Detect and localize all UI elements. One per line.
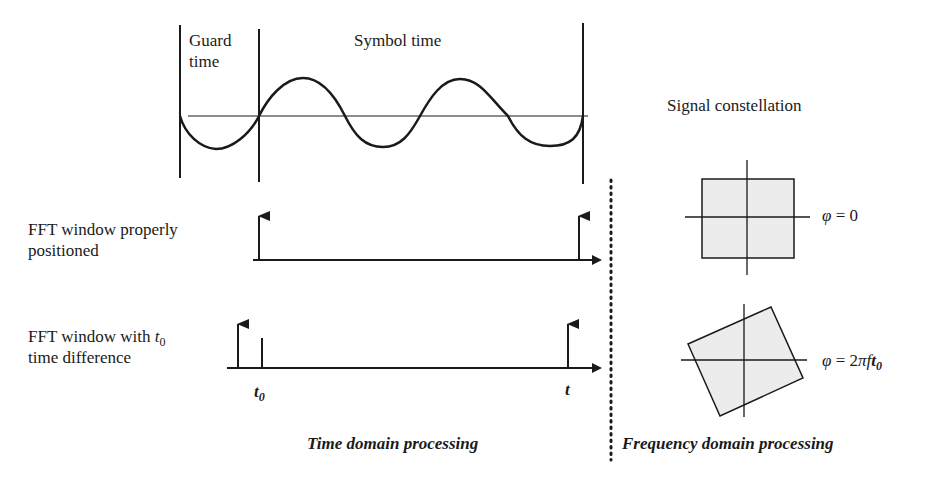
fft-proper-line1: FFT window properly (28, 219, 178, 240)
constellation-square (702, 179, 794, 258)
t-subscript: 0 (876, 359, 882, 373)
phase-shift-eq: = 2 (831, 351, 858, 370)
guard-time-line2: time (189, 51, 231, 72)
phi-symbol-2: φ (822, 351, 831, 370)
t0-axis-sub: 0 (259, 390, 265, 404)
fft-offset-line2: time difference (28, 347, 165, 368)
phase-zero-label: φ = 0 (822, 205, 858, 226)
constellation-rotated (681, 304, 807, 417)
timeline-proper (253, 216, 600, 260)
fft-proper-line2: positioned (28, 240, 178, 261)
signal-constellation-title: Signal constellation (667, 95, 802, 116)
guard-time-line1: Guard (189, 30, 231, 51)
t0-subscript: 0 (159, 335, 165, 349)
constellation-aligned (685, 160, 810, 275)
symbol-time-label: Symbol time (354, 30, 441, 51)
phase-shift-label: φ = 2πft0 (822, 350, 882, 371)
phi-symbol: φ (822, 206, 831, 225)
t0-axis-label: t0 (254, 381, 265, 402)
fft-offset-line1: FFT window with t0 (28, 326, 165, 347)
t-axis-label: t (565, 379, 570, 400)
rotated-constellation-square (688, 307, 803, 416)
phase-zero-value: = 0 (831, 206, 858, 225)
pi-symbol: π (858, 351, 867, 370)
frequency-domain-caption: Frequency domain processing (622, 433, 834, 454)
fft-proper-label: FFT window properly positioned (28, 219, 178, 261)
fft-offset-label: FFT window with t0 time difference (28, 326, 165, 368)
fft-offset-prefix: FFT window with (28, 327, 155, 346)
time-domain-caption: Time domain processing (307, 433, 478, 454)
timeline-offset (227, 324, 600, 368)
guard-time-label: Guard time (189, 30, 231, 72)
sine-waveform (180, 78, 583, 149)
